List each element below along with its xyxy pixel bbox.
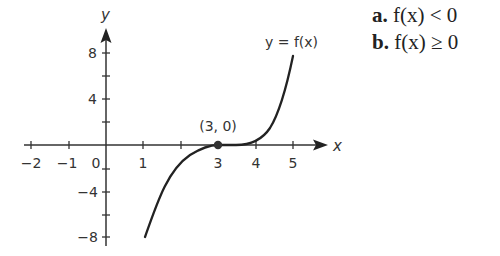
y-tick-label: −8: [77, 229, 98, 245]
x-tick-label: 5: [289, 155, 298, 171]
question-list: a. f(x) < 0 b. f(x) ≥ 0: [372, 2, 458, 56]
question-expression: f(x) ≥ 0: [394, 30, 458, 54]
curve-label: y = f(x): [265, 34, 318, 50]
y-tick-label: −4: [77, 184, 98, 200]
function-graph: −2 −1 0 1 3 4 5 x 8 4 −4 −8 y (3, 0) y =: [0, 0, 360, 256]
y-tick-label: 4: [88, 91, 97, 107]
y-axis: 8 4 −4 −8 y: [77, 6, 111, 246]
x-axis: −2 −1 0 1 3 4 5 x: [21, 137, 342, 171]
x-tick-label: 3: [214, 155, 223, 171]
y-tick-label: 8: [88, 45, 97, 61]
point-marker: [214, 141, 222, 149]
question-b: b. f(x) ≥ 0: [372, 29, 458, 56]
x-tick-label: 4: [252, 155, 261, 171]
question-letter: b.: [372, 30, 389, 54]
x-tick-label: 1: [139, 155, 148, 171]
question-expression: f(x) < 0: [393, 3, 457, 27]
x-tick-label: 0: [92, 155, 101, 171]
y-axis-label: y: [100, 6, 111, 24]
x-tick-label: −1: [57, 155, 78, 171]
question-letter: a.: [372, 3, 388, 27]
point-label: (3, 0): [199, 118, 237, 134]
x-axis-label: x: [332, 137, 342, 155]
x-tick-label: −2: [21, 155, 42, 171]
question-a: a. f(x) < 0: [372, 2, 458, 29]
